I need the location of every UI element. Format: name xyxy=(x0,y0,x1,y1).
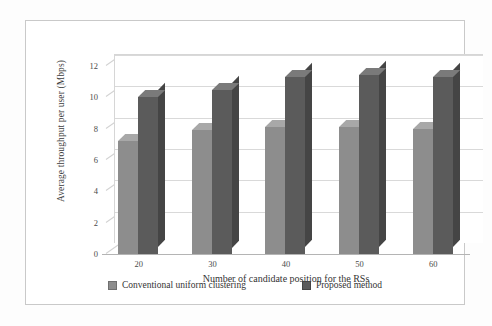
legend-item-series-2: Proposed method xyxy=(302,280,382,290)
bar-front xyxy=(285,77,305,254)
bar-group xyxy=(265,66,305,254)
bar-50-series-1 xyxy=(339,127,359,254)
legend-item-series-1: Conventional uniform clustering xyxy=(108,280,246,290)
bar-front xyxy=(138,97,158,254)
bar-front xyxy=(359,75,379,254)
chart-frame: Average throughput per user (Mbps) 02468… xyxy=(25,20,465,305)
bar-60-series-2 xyxy=(433,77,453,254)
y-tick-label: 0 xyxy=(72,250,98,259)
x-tick-label: 60 xyxy=(413,259,453,269)
bar-front xyxy=(118,141,138,254)
chart-screenshot: Average throughput per user (Mbps) 02468… xyxy=(0,0,492,326)
y-tick-label: 2 xyxy=(72,219,98,228)
y-tick-label: 4 xyxy=(72,187,98,196)
bar-group xyxy=(192,66,232,254)
y-tick-label: 6 xyxy=(72,156,98,165)
legend-swatch-icon xyxy=(108,281,117,290)
bar-side xyxy=(379,61,386,247)
x-tick-label: 20 xyxy=(119,259,159,269)
bar-front xyxy=(265,127,285,254)
bar-group xyxy=(339,66,379,254)
bar-front xyxy=(433,77,453,254)
bar-front xyxy=(413,129,433,254)
bar-40-series-1 xyxy=(265,127,285,254)
plot-area xyxy=(102,66,470,254)
bar-20-series-2 xyxy=(138,97,158,254)
gridline xyxy=(115,55,483,56)
bar-side xyxy=(158,83,165,247)
y-tick-label: 12 xyxy=(72,62,98,71)
legend-label: Proposed method xyxy=(316,280,382,290)
legend-label: Conventional uniform clustering xyxy=(122,280,246,290)
bar-60-series-1 xyxy=(413,129,433,254)
chart-legend: Conventional uniform clustering Proposed… xyxy=(25,280,465,290)
x-tick-label: 40 xyxy=(266,259,306,269)
bar-side xyxy=(453,63,460,247)
bar-50-series-2 xyxy=(359,75,379,254)
y-tick-label: 10 xyxy=(72,93,98,102)
bar-front xyxy=(339,127,359,254)
bar-group xyxy=(118,66,158,254)
bar-side xyxy=(232,75,239,247)
x-tick-label: 50 xyxy=(340,259,380,269)
bar-30-series-1 xyxy=(192,130,212,254)
bar-side xyxy=(305,63,312,247)
bar-front xyxy=(192,130,212,254)
bar-group xyxy=(413,66,453,254)
y-axis-title: Average throughput per user (Mbps) xyxy=(56,36,66,226)
x-tick-label: 30 xyxy=(192,259,232,269)
bar-front xyxy=(212,90,232,255)
x-axis-line xyxy=(102,254,470,255)
bar-40-series-2 xyxy=(285,77,305,254)
bar-20-series-1 xyxy=(118,141,138,254)
y-tick-label: 8 xyxy=(72,125,98,134)
legend-swatch-icon xyxy=(302,281,311,290)
bar-30-series-2 xyxy=(212,90,232,255)
